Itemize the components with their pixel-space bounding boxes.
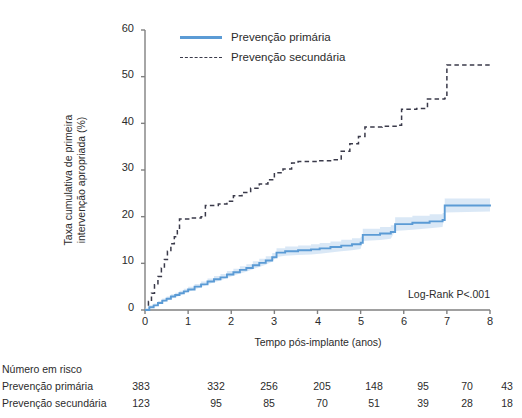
axis-lines [145,30,490,310]
risk-value-primary-2: 256 [254,380,284,392]
risk-value-secondary-2: 85 [254,397,284,409]
legend-label-primary: Prevenção primária [231,31,331,43]
log-rank-annotation: Log-Rank P<.001 [408,288,490,300]
risk-value-primary-3: 205 [307,380,337,392]
risk-value-primary-5: 95 [408,380,438,392]
risk-value-primary-6: 70 [452,380,482,392]
legend: Prevenção primária Prevenção secundária [180,27,345,67]
risk-value-secondary-3: 70 [307,397,337,409]
risk-row-label-primary: Prevenção primária [2,380,93,392]
risk-value-primary-7: 43 [492,380,522,392]
legend-item-secondary: Prevenção secundária [180,47,345,67]
risk-value-secondary-6: 28 [452,397,482,409]
legend-item-primary: Prevenção primária [180,27,345,47]
risk-value-primary-4: 148 [359,380,389,392]
risk-value-secondary-0: 123 [126,397,156,409]
risk-value-secondary-1: 95 [201,397,231,409]
legend-label-secondary: Prevenção secundária [231,51,345,63]
risk-value-secondary-5: 39 [408,397,438,409]
risk-value-secondary-7: 18 [492,397,522,409]
risk-value-secondary-4: 51 [359,397,389,409]
kaplan-meier-figure: Taxa cumulativa de primeira intervenção … [0,0,522,418]
risk-table-title: Número em risco [2,363,82,375]
risk-value-primary-1: 332 [201,380,231,392]
legend-swatch-dashed-line-icon [180,57,222,58]
risk-row-label-secondary: Prevenção secundária [2,397,106,409]
legend-swatch-solid-line-icon [180,36,222,39]
risk-value-primary-0: 383 [126,380,156,392]
